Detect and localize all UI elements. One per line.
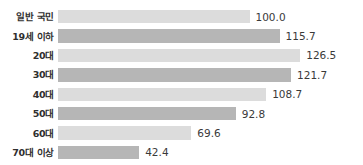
bar-value-label: 92.8	[236, 108, 265, 120]
bar-track: 121.7	[58, 65, 363, 84]
bar-track: 115.7	[58, 26, 363, 45]
bar[interactable]	[58, 146, 139, 160]
category-label: 60대	[0, 128, 58, 139]
bar[interactable]	[58, 49, 300, 63]
category-label: 30대	[0, 69, 58, 80]
bar[interactable]	[58, 68, 291, 82]
bar-track: 42.4	[58, 143, 363, 162]
bar[interactable]	[58, 29, 280, 43]
bar[interactable]	[58, 10, 250, 24]
bar[interactable]	[58, 88, 266, 102]
horizontal-bar-chart: 일반 국민 100.0 19세 이하 115.7 20대 126.5 30대 1…	[0, 0, 363, 165]
category-label: 20대	[0, 50, 58, 61]
category-label: 50대	[0, 108, 58, 119]
bar-row: 일반 국민 100.0	[0, 7, 363, 26]
bar-row: 50대 92.8	[0, 104, 363, 123]
bar-row: 40대 108.7	[0, 85, 363, 104]
bar-value-label: 115.7	[280, 30, 316, 42]
bar-value-label: 121.7	[291, 69, 327, 81]
bar-track: 100.0	[58, 7, 363, 26]
category-label: 40대	[0, 89, 58, 100]
category-label: 19세 이하	[0, 31, 58, 42]
bar[interactable]	[58, 107, 236, 121]
category-label: 70대 이상	[0, 147, 58, 158]
bar-row: 19세 이하 115.7	[0, 26, 363, 45]
bar-value-label: 69.6	[191, 127, 220, 139]
bar-value-label: 42.4	[139, 146, 168, 158]
bar-row: 20대 126.5	[0, 46, 363, 65]
category-label: 일반 국민	[0, 11, 58, 22]
bar-track: 108.7	[58, 85, 363, 104]
bar-row: 30대 121.7	[0, 65, 363, 84]
bar-value-label: 108.7	[266, 88, 302, 100]
bar-row: 60대 69.6	[0, 123, 363, 142]
bar-row: 70대 이상 42.4	[0, 143, 363, 162]
bar-track: 126.5	[58, 46, 363, 65]
bar-value-label: 100.0	[250, 11, 286, 23]
bar-value-label: 126.5	[300, 49, 336, 61]
bar-track: 92.8	[58, 104, 363, 123]
bar[interactable]	[58, 126, 191, 140]
bar-track: 69.6	[58, 123, 363, 142]
